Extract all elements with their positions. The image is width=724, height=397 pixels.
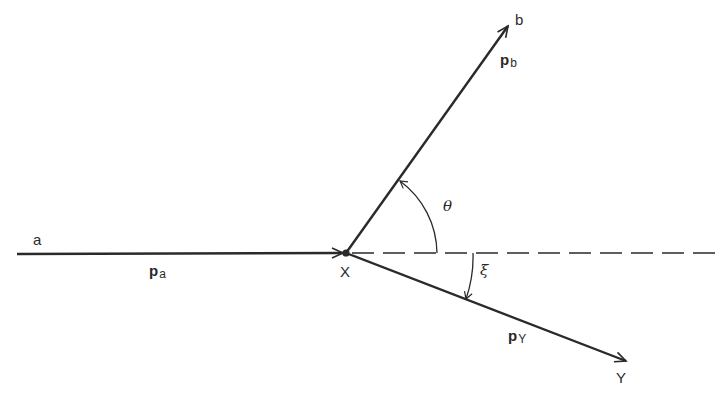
particle-label-a: a — [33, 232, 41, 247]
vertex-label-X: X — [340, 264, 350, 279]
momentum-subscript: Y — [518, 332, 526, 346]
momentum-symbol: p — [500, 51, 509, 68]
momentum-symbol: p — [149, 262, 158, 279]
particle-label-b: b — [515, 12, 523, 27]
vertex-dot — [342, 249, 349, 256]
xi-angle-arc — [466, 253, 473, 299]
momentum-subscript: b — [510, 56, 517, 70]
momentum-label-pb: pb — [500, 52, 517, 69]
particle-label-Y: Y — [616, 370, 626, 385]
diagram-canvas — [0, 0, 724, 397]
outgoing-line-b — [346, 26, 508, 253]
xi-angle-label: ξ — [480, 263, 488, 278]
theta-angle-arc — [400, 181, 437, 253]
momentum-symbol: p — [508, 327, 517, 344]
theta-angle-label: θ — [443, 199, 452, 214]
momentum-label-pY: pY — [508, 328, 526, 345]
incoming-line-a — [17, 253, 343, 254]
momentum-subscript: a — [159, 267, 166, 281]
momentum-label-pa: pa — [149, 263, 166, 280]
